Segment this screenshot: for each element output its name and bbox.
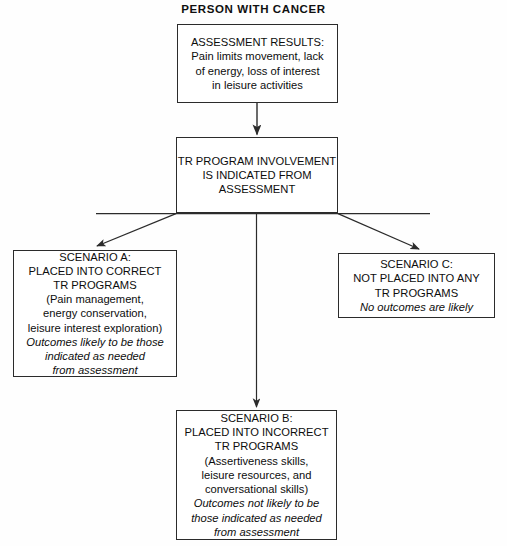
- node-scenario-b: SCENARIO B: PLACED INTO INCORRECT TR PRO…: [176, 410, 337, 540]
- node-line: TR PROGRAMS: [14, 278, 176, 292]
- node-line: ASSESSMENT RESULTS:: [178, 35, 337, 49]
- node-line: conversational skills): [177, 482, 336, 496]
- node-line: from assessment: [177, 525, 336, 539]
- node-line: leisure resources, and: [177, 468, 336, 482]
- node-line: TR PROGRAM INVOLVEMENT: [177, 154, 337, 168]
- node-line: Outcomes not likely to be: [177, 496, 336, 510]
- node-line: (Assertiveness skills,: [177, 454, 336, 468]
- node-line: those indicated as needed: [177, 511, 336, 525]
- node-tr-program-involvement: TR PROGRAM INVOLVEMENT IS INDICATED FROM…: [176, 137, 338, 213]
- node-line: SCENARIO B:: [177, 411, 336, 425]
- node-line: PLACED INTO INCORRECT: [177, 425, 336, 439]
- node-line: indicated as needed: [14, 349, 176, 363]
- node-line: IS INDICATED FROM: [177, 168, 337, 182]
- node-line: from assessment: [14, 363, 176, 377]
- connector-involvement-to-scenario-a: [97, 214, 176, 246]
- node-line: TR PROGRAMS: [177, 439, 336, 453]
- page-title: PERSON WITH CANCER: [0, 3, 507, 15]
- node-line: Pain limits movement, lack: [178, 49, 337, 63]
- connector-involvement-to-scenario-c: [338, 214, 419, 249]
- node-line: Outcomes likely to be those: [14, 335, 176, 349]
- node-line: ASSESSMENT: [177, 182, 337, 196]
- node-line: of energy, loss of interest: [178, 64, 337, 78]
- node-line: TR PROGRAMS: [339, 286, 494, 300]
- node-line: (Pain management,: [14, 292, 176, 306]
- node-assessment-results: ASSESSMENT RESULTS: Pain limits movement…: [177, 24, 338, 103]
- node-line: SCENARIO C:: [339, 257, 494, 271]
- node-scenario-a: SCENARIO A: PLACED INTO CORRECT TR PROGR…: [13, 250, 177, 377]
- node-scenario-c: SCENARIO C: NOT PLACED INTO ANY TR PROGR…: [338, 253, 495, 318]
- flowchart-page: PERSON WITH CANCER ASSESSMENT RESULTS: P…: [0, 0, 507, 546]
- node-line: in leisure activities: [178, 78, 337, 92]
- node-line: PLACED INTO CORRECT: [14, 264, 176, 278]
- node-line: NOT PLACED INTO ANY: [339, 271, 494, 285]
- node-line: energy conservation,: [14, 306, 176, 320]
- node-line: leisure interest exploration): [14, 321, 176, 335]
- node-line: SCENARIO A:: [14, 250, 176, 264]
- node-line: No outcomes are likely: [339, 300, 494, 314]
